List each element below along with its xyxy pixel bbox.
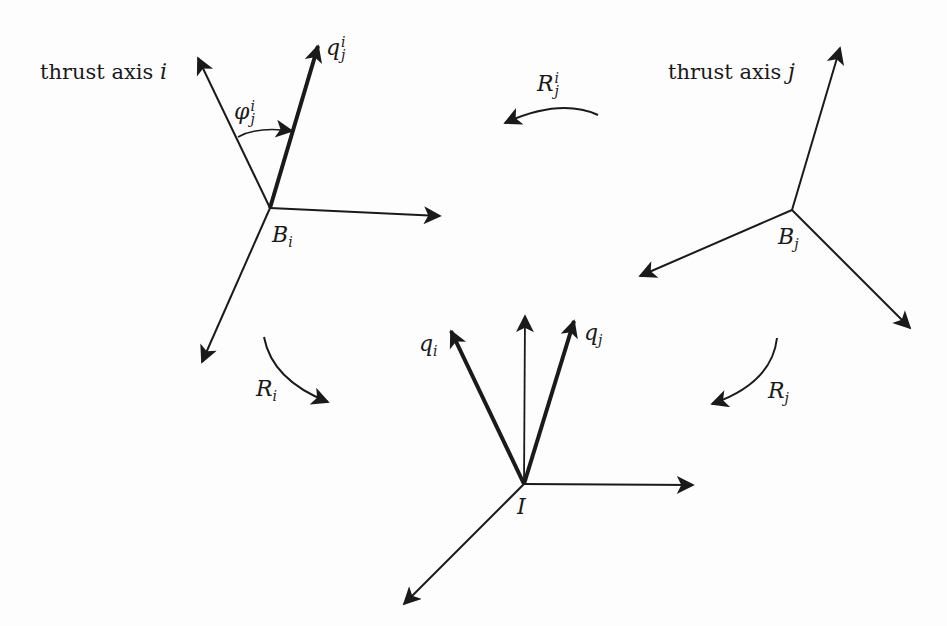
thrust-axis-i-var: i [160, 59, 167, 84]
q-i-base: q [419, 331, 433, 356]
thrust-axis-j-var: j [788, 59, 795, 84]
r-i-base: R [256, 376, 273, 401]
i-x-axis-arrow [524, 484, 693, 485]
frame-i-name: I [517, 494, 526, 519]
q-j-base: q [584, 320, 598, 345]
frame-i [404, 316, 693, 604]
q-j-i-label: qij [326, 36, 346, 63]
frame-bj [640, 48, 910, 328]
thrust-axis-i-arrow [198, 58, 270, 208]
r-i-sub: i [273, 388, 277, 404]
r-j-label: Rj [768, 380, 789, 405]
frame-bi-name: B [272, 222, 288, 247]
r-i-label: Ri [256, 378, 277, 403]
q-i-sub: i [433, 343, 437, 359]
i-down-left-axis-arrow [404, 484, 524, 604]
rotation-r-j-i-arrow [505, 108, 598, 123]
q-j-sub: j [598, 332, 602, 348]
r-j-base: R [768, 378, 785, 403]
frame-i-label: I [517, 496, 526, 518]
q-j-i-sub: j [341, 49, 345, 62]
frame-bi-label: Bi [272, 224, 293, 249]
frame-bj-sub: j [794, 236, 798, 252]
bi-z-axis-arrow [202, 208, 270, 362]
diagram-canvas: thrust axis i thrust axis j qij φij Rij … [0, 0, 947, 626]
frame-bi-sub: i [288, 234, 292, 250]
r-j-i-sub: j [555, 85, 559, 98]
q-j-arrow [524, 321, 574, 484]
r-j-sub: j [785, 390, 789, 406]
q-i-arrow [451, 331, 524, 484]
phi-j-i-sub: j [250, 113, 254, 126]
thrust-axis-i-text: thrust axis [40, 60, 160, 84]
phi-j-i-label: φij [234, 100, 255, 127]
frame-bj-label: Bj [778, 226, 799, 251]
q-j-label: qj [584, 322, 602, 347]
q-i-label: qi [419, 333, 438, 358]
q-j-i-base: q [326, 35, 340, 60]
r-j-i-base: R [537, 71, 554, 96]
r-j-i-label: Rij [537, 72, 559, 99]
thrust-axis-j-arrow [792, 48, 840, 210]
diagram-svg [0, 0, 947, 626]
frame-bi [198, 46, 440, 362]
phi-j-i-base: φ [234, 99, 249, 124]
thrust-axis-j-text: thrust axis [668, 60, 788, 84]
thrust-axis-j-label: thrust axis j [668, 61, 795, 83]
bj-left-axis-arrow [640, 210, 792, 276]
i-vertical-axis-arrow [524, 316, 525, 484]
bj-right-axis-arrow [792, 210, 910, 328]
thrust-axis-i-label: thrust axis i [40, 61, 167, 83]
phi-angle-arc [238, 129, 292, 137]
bi-x-axis-arrow [270, 208, 440, 216]
frame-bj-name: B [778, 224, 794, 249]
q-j-i-arrow [270, 46, 318, 208]
